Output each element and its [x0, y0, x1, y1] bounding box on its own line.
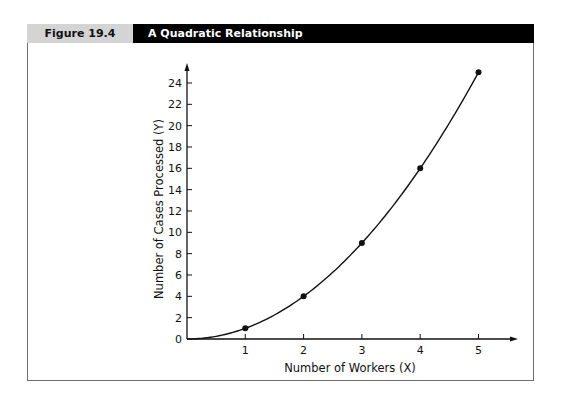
y-tick-label: 16: [168, 162, 182, 175]
data-point: [359, 240, 365, 246]
y-axis-arrow-icon: [185, 63, 190, 71]
data-point: [301, 293, 307, 299]
chart: 02468101214161820222412345Number of Work…: [0, 0, 562, 413]
y-tick-label: 18: [168, 141, 182, 154]
y-tick-label: 2: [175, 312, 182, 325]
y-tick-label: 24: [168, 77, 182, 90]
y-tick-label: 6: [175, 269, 182, 282]
data-point: [476, 69, 482, 75]
y-tick-label: 22: [168, 98, 182, 111]
y-tick-label: 20: [168, 120, 182, 133]
x-tick-label: 2: [300, 344, 307, 357]
data-point: [242, 325, 248, 331]
data-point: [417, 165, 423, 171]
x-tick-label: 1: [242, 344, 249, 357]
y-tick-label: 8: [175, 248, 182, 261]
x-tick-label: 3: [358, 344, 365, 357]
y-axis-label: Number of Cases Processed (Y): [152, 119, 166, 299]
y-tick-label: 0: [175, 333, 182, 346]
x-tick-label: 4: [417, 344, 424, 357]
y-tick-label: 10: [168, 226, 182, 239]
y-tick-label: 14: [168, 184, 182, 197]
y-tick-label: 4: [175, 290, 182, 303]
x-tick-label: 5: [475, 344, 482, 357]
x-axis-arrow-icon: [510, 337, 518, 342]
quadratic-curve: [187, 72, 479, 339]
y-tick-label: 12: [168, 205, 182, 218]
x-axis-label: Number of Workers (X): [284, 361, 416, 375]
